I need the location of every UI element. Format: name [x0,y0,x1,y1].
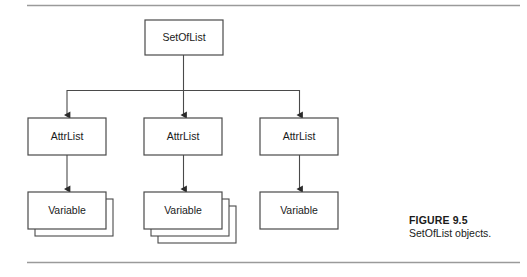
figure-caption-title: FIGURE 9.5 [409,214,521,226]
node-attrlist-3-label: AttrList [283,130,316,142]
node-variable-1-label: Variable [48,204,86,216]
figure-caption: FIGURE 9.5 SetOfList objects. [409,214,521,240]
node-setoflist-label: SetOfList [162,31,205,43]
node-attrlist-2-label: AttrList [167,130,200,142]
figure-caption-text: SetOfList objects. [409,227,521,239]
node-variable-3-label: Variable [280,204,318,216]
node-variable-2-label: Variable [164,204,202,216]
figure-container: SetOfList AttrList AttrList AttrList Var… [0,0,527,277]
node-attrlist-1-label: AttrList [51,130,84,142]
